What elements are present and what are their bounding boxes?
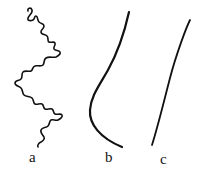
panel-label-a: a bbox=[29, 150, 36, 165]
figure-container: a b c bbox=[0, 0, 213, 172]
panel-label-c: c bbox=[160, 152, 167, 167]
panel-label-b: b bbox=[105, 150, 113, 165]
figure-background bbox=[0, 0, 213, 172]
curves-figure-canvas bbox=[0, 0, 213, 172]
